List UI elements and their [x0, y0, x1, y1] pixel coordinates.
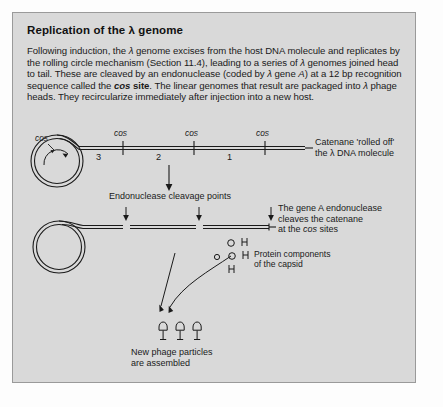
phage-particle: [193, 322, 201, 340]
cleavage-arrow-3-head: [268, 215, 274, 221]
cleavage-caption-line3-post: sites: [317, 224, 338, 234]
catenane-caption-line1: Catenane 'rolled off': [315, 137, 394, 147]
cos-label-1: cos: [114, 128, 127, 138]
assembly-arrow-curved-head: [169, 306, 174, 313]
protein-glyph-circle-1: [228, 240, 235, 247]
rotation-arrowhead: [63, 153, 69, 157]
cleavage-caption-line2: cleaves the catenane: [278, 214, 363, 224]
segment-number-3: 3: [96, 152, 101, 162]
protein-glyph-h-2: [243, 251, 248, 259]
phage-particle: [159, 322, 167, 340]
cleavage-arrow-1-head: [123, 215, 129, 221]
cos-label-3: cos: [256, 128, 269, 138]
cleavage-caption-cos: cos: [303, 224, 317, 234]
protein-glyph-circle-3: [214, 254, 219, 259]
protein-caption-line2: of the capsid: [254, 259, 303, 269]
catenane-caption-line2: the λ DNA molecule: [315, 148, 394, 158]
phage-head-1: [159, 322, 167, 330]
protein-components-caption: Protein components of the capsid: [254, 249, 330, 270]
cleaved-circle-inner: [37, 225, 82, 270]
cos-label-circle: cos: [35, 133, 48, 143]
segment-number-2: 2: [156, 152, 161, 162]
phage-caption-line1: New phage particles: [131, 347, 213, 357]
assembly-arrow-curved-shaft: [170, 256, 231, 307]
assembly-arrow-straight-shaft: [161, 253, 175, 306]
rolling-circle-inner: [35, 139, 80, 184]
phage-head-2: [176, 322, 184, 330]
phage-particle: [176, 322, 184, 340]
cleavage-caption-line3-pre: at the: [278, 224, 303, 234]
phage-assembly-caption: New phage particles are assembled: [131, 347, 213, 368]
cleavage-points-label: Endonuclease cleavage points: [109, 191, 231, 202]
cos-pointer-line: [48, 144, 54, 150]
rotation-arrow: [44, 150, 68, 165]
protein-caption-line1: Protein components: [254, 249, 330, 259]
cleaved-circle-outer: [33, 221, 85, 273]
phage-head-3: [193, 322, 201, 330]
catenane-caption: Catenane 'rolled off' the λ DNA molecule: [315, 137, 394, 158]
cleavage-caption-line1: The gene A endonuclease: [278, 203, 382, 213]
protein-glyph-circle-2: [229, 253, 236, 260]
figure-panel: Replication of the λ genome Following in…: [12, 12, 416, 383]
phage-caption-line2: are assembled: [131, 358, 190, 368]
cos-label-2: cos: [185, 128, 198, 138]
cleavage-caption: The gene A endonuclease cleaves the cate…: [278, 203, 382, 235]
segment-number-1: 1: [227, 152, 232, 162]
process-arrow-1-head: [166, 184, 173, 191]
protein-glyph-h-3: [229, 265, 234, 273]
cleavage-arrow-2-head: [196, 215, 202, 221]
assembly-arrow-straight-head: [159, 305, 164, 312]
protein-glyph-h-1: [242, 238, 247, 246]
